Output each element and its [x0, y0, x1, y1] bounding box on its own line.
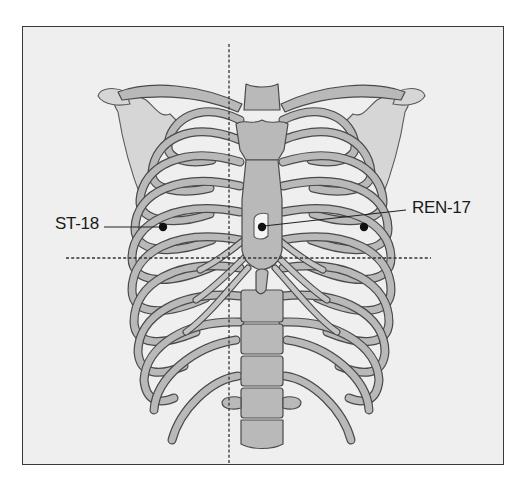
- acupoint-st18-right: [360, 223, 368, 231]
- spine: [222, 290, 301, 449]
- label-st18: ST-18: [55, 214, 99, 234]
- acupoint-st18-left: [159, 223, 167, 231]
- rib-cage-illustration: [0, 0, 523, 483]
- acupoint-ren17: [258, 223, 266, 231]
- label-ren17: REN-17: [412, 198, 471, 218]
